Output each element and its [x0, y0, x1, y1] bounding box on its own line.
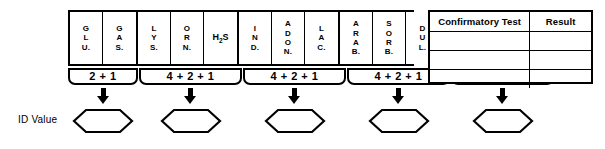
test-label-dulcitol: D U L. [419, 24, 427, 52]
value-box-group-2: 4 + 2 + 1 [139, 68, 242, 85]
test-cell-ornithine[interactable]: O R N. [171, 12, 204, 64]
test-label-ornithine: O R N. [183, 24, 191, 52]
table-row [430, 51, 591, 70]
test-cell-indole[interactable]: I N D. [239, 12, 272, 64]
value-box-group-3: 4 + 2 + 1 [243, 68, 346, 85]
value-box-label: 4 + 2 + 1 [167, 71, 215, 82]
id-value-hexagon-3[interactable] [264, 108, 326, 134]
value-box-label: 2 + 1 [89, 71, 116, 82]
value-box-label: 4 + 2 + 1 [271, 71, 319, 82]
down-arrow-icon-3 [288, 88, 301, 104]
table-header-row: Confirmatory Test Result [430, 12, 591, 32]
test-cell-hydrogen-sulfide[interactable]: H2S [204, 12, 237, 64]
test-label-sorbitol: S O R B. [385, 19, 393, 57]
test-label-lactose: L A C. [317, 24, 325, 52]
id-value-hexagon-1[interactable] [72, 108, 134, 134]
down-arrow-icon-1 [97, 88, 110, 104]
worksheet-root: G L U.G A S.L Y S.O R N.H2SI N D.A D O N… [0, 0, 605, 149]
table-row [430, 70, 591, 89]
test-label-lysine: L Y S. [150, 24, 158, 52]
id-value-text-3 [264, 108, 326, 134]
id-value-label: ID Value [18, 114, 57, 125]
test-group-4: A R A B.S O R B.D U L. [340, 12, 439, 64]
test-label-hydrogen-sulfide: H2S [212, 32, 228, 44]
test-group-1: G L U.G A S. [70, 12, 136, 64]
down-arrow-icon-2 [184, 88, 197, 104]
id-value-hexagon-5[interactable] [472, 108, 534, 134]
value-box-label: 4 + 2 + 1 [375, 71, 423, 82]
test-label-glucose: G L U. [82, 24, 90, 52]
test-group-2: L Y S.O R N.H2S [138, 12, 237, 64]
test-cell-lysine[interactable]: L Y S. [138, 12, 171, 64]
cell-result-2[interactable] [530, 51, 591, 70]
test-cell-arabinose[interactable]: A R A B. [340, 12, 373, 64]
cell-result-1[interactable] [530, 32, 591, 51]
id-value-text-4 [368, 108, 430, 134]
confirmatory-test-table: Confirmatory Test Result [428, 10, 593, 84]
cell-result-3[interactable] [530, 70, 591, 89]
value-box-group-1: 2 + 1 [68, 68, 138, 85]
down-arrow-icon-5 [496, 88, 509, 104]
test-cell-glucose[interactable]: G L U. [70, 12, 103, 64]
id-value-text-5 [472, 108, 534, 134]
test-cell-adonitol[interactable]: A D O N. [272, 12, 305, 64]
test-label-indole: I N D. [251, 24, 259, 52]
id-value-text-1 [72, 108, 134, 134]
test-label-gas: G A S. [116, 24, 124, 52]
id-value-hexagon-4[interactable] [368, 108, 430, 134]
test-cell-lactose[interactable]: L A C. [305, 12, 338, 64]
cell-confirmatory-test-1[interactable] [430, 32, 530, 51]
test-cell-gas[interactable]: G A S. [103, 12, 136, 64]
test-label-adonitol: A D O N. [284, 19, 292, 57]
cell-confirmatory-test-3[interactable] [430, 70, 530, 89]
cell-confirmatory-test-2[interactable] [430, 51, 530, 70]
column-header-result: Result [530, 12, 591, 32]
biochemical-test-strip: G L U.G A S.L Y S.O R N.H2SI N D.A D O N… [68, 10, 414, 66]
id-value-hexagon-2[interactable] [160, 108, 222, 134]
down-arrow-icon-4 [392, 88, 405, 104]
test-label-arabinose: A R A B. [352, 19, 360, 57]
id-value-text-2 [160, 108, 222, 134]
table-row [430, 32, 591, 51]
column-header-confirmatory-test: Confirmatory Test [430, 12, 530, 32]
test-group-3: I N D.A D O N.L A C. [239, 12, 338, 64]
test-cell-sorbitol[interactable]: S O R B. [373, 12, 406, 64]
